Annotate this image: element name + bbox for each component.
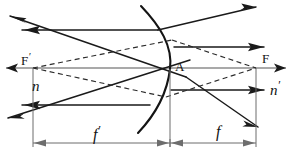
label-vertex-a: A — [175, 60, 184, 73]
emergent-ray-lower-oblique — [186, 77, 258, 127]
diagram-canvas — [0, 0, 294, 163]
dimension-arrow-fprime-left — [34, 139, 46, 146]
label-focal-point-f: F — [262, 52, 269, 65]
dimension-line-group — [33, 139, 256, 147]
dimension-arrow-fprime-right — [157, 139, 169, 146]
label-focal-length-f-prime: f′ — [93, 124, 100, 143]
label-focal-f-prime-tick: ′ — [97, 123, 100, 137]
label-f-prime-tick: ′ — [28, 51, 30, 62]
label-n-prime-tick: ′ — [278, 78, 281, 92]
bracket-lines-group — [33, 68, 256, 147]
optical-axis-group — [6, 64, 286, 73]
incident-ray-upper-oblique-arrow — [10, 16, 27, 24]
dimension-arrow-f-left — [171, 139, 183, 146]
construction-ray-fprime-upper — [33, 40, 172, 68]
label-refractive-index-n-prime: n′ — [270, 79, 280, 98]
label-focal-point-f-prime: F′ — [21, 52, 31, 67]
construction-ray-fprime-lower — [33, 68, 166, 97]
incident-ray-lower-oblique-arrow — [8, 113, 25, 118]
emergent-ray-upper-oblique — [158, 7, 256, 30]
label-refractive-index-n: n — [32, 79, 40, 94]
optics-ray-diagram: F′ F A n n′ f′ f — [0, 0, 294, 163]
construction-ray-upper-to-f — [172, 40, 256, 68]
dimension-arrow-f-right — [243, 139, 255, 146]
label-n-prime-letter: n — [270, 82, 278, 98]
label-focal-length-f: f — [216, 124, 220, 140]
